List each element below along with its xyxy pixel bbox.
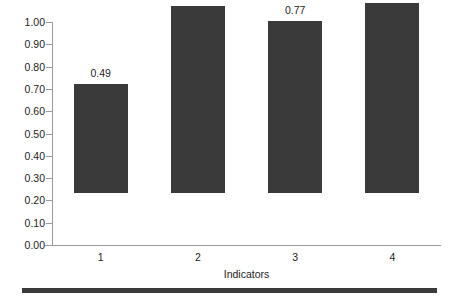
bar [74,84,128,193]
bar-value-label: 0.77 [256,4,334,17]
bar-slot: 0.49 [74,0,128,193]
x-tick-label: 1 [74,250,128,264]
bar-value-label: 0.84 [159,0,237,2]
bar-slot: 0.85 [365,0,419,193]
bar-chart: 1.00 0.90 0.80 0.70 0.60 0.50 0.40 0.30 … [0,0,451,298]
bar [171,6,225,193]
x-tick-label: 3 [268,250,322,264]
bar [365,3,419,193]
bar [268,21,322,193]
bar-slot: 0.77 [268,0,322,193]
bottom-rule [22,288,437,293]
x-tick-label: 4 [365,250,419,264]
x-tick-label: 2 [171,250,225,264]
bar-slot: 0.84 [171,0,225,193]
bars-layer: 0.49 0.84 0.77 0.85 [0,0,451,246]
bar-value-label: 0.49 [62,67,140,80]
x-axis-title: Indicators [52,268,441,281]
